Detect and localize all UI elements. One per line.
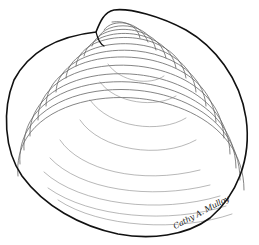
clam-shell-drawing [0,0,259,245]
